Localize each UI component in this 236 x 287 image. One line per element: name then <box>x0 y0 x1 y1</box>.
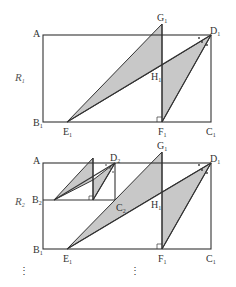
geometry-figure: A R1 B1 E1 F1 C1 G1 D1 H1 A R2 <box>0 0 236 287</box>
label-a: A <box>33 155 41 166</box>
label-e1: E1 <box>63 253 72 265</box>
small-right-angle-mark <box>89 196 93 200</box>
angle-mark-dot <box>201 41 203 43</box>
angle-mark-dot <box>198 164 200 166</box>
label-f1: F1 <box>158 253 167 265</box>
label-g1: G1 <box>157 12 167 24</box>
label-r2: R2 <box>14 195 25 208</box>
continuation-dots-center: ⋮ <box>130 265 140 276</box>
continuation-dots-left: ⋮ <box>19 265 29 276</box>
label-b2: B2 <box>32 194 42 206</box>
label-d1: D1 <box>210 153 220 165</box>
label-g1: G1 <box>157 140 167 152</box>
angle-mark-dot <box>112 171 114 173</box>
label-e1: E1 <box>63 126 72 138</box>
label-d2: D2 <box>110 152 120 164</box>
label-h1: H1 <box>151 199 161 211</box>
right-angle-mark <box>157 244 162 249</box>
label-c1: C1 <box>206 253 216 265</box>
angle-mark-dot <box>206 172 208 174</box>
angle-mark-dot <box>105 164 107 166</box>
label-r1: R1 <box>14 71 25 84</box>
label-b1: B1 <box>33 244 43 256</box>
small-triangle-left <box>54 158 93 200</box>
figure-r1: A R1 B1 E1 F1 C1 G1 D1 H1 <box>14 12 220 138</box>
angle-mark-dot <box>201 169 203 171</box>
angle-mark-dot <box>198 37 200 39</box>
label-b1: B1 <box>33 117 43 129</box>
label-a: A <box>33 28 41 39</box>
angle-mark-dot <box>206 44 208 46</box>
right-angle-mark <box>157 117 162 122</box>
label-d1: D1 <box>210 25 220 37</box>
label-c1: C1 <box>206 126 216 138</box>
figure-r2: A R2 B2 D2 C2 B1 E1 F1 C1 G1 D1 H1 ⋮ ⋮ <box>14 140 220 276</box>
angle-mark-dot <box>109 167 111 169</box>
label-h1: H1 <box>151 71 161 83</box>
label-f1: F1 <box>158 126 167 138</box>
